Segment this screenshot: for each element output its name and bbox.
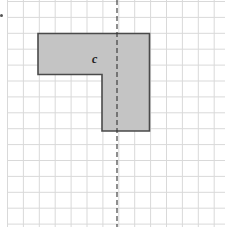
corner-mark: [0, 14, 3, 17]
shape-label: c: [92, 52, 98, 66]
reflection-diagram: c: [0, 0, 225, 227]
